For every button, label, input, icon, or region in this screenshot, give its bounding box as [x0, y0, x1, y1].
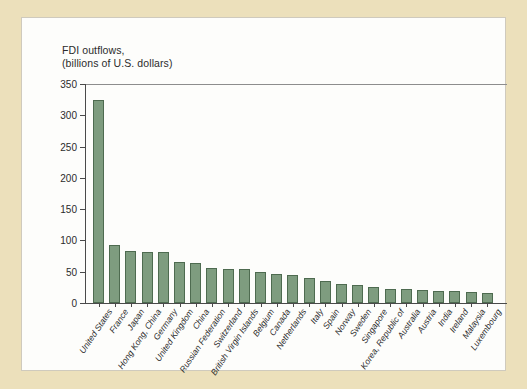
bar — [287, 275, 298, 303]
y-tick — [80, 303, 85, 304]
y-tick-label: 250 — [60, 141, 77, 152]
bar — [482, 293, 493, 303]
chart-title-line1: FDI outflows, — [62, 44, 173, 57]
y-tick-label: 150 — [60, 204, 77, 215]
bar — [223, 269, 234, 303]
plot-area: 050100150200250300350 — [85, 84, 507, 303]
bar — [271, 274, 282, 303]
y-tick-label: 300 — [60, 110, 77, 121]
bar — [142, 252, 153, 303]
bar — [352, 285, 363, 303]
bar-series — [85, 84, 507, 303]
bar — [449, 291, 460, 303]
y-tick-label: 100 — [60, 235, 77, 246]
bar — [174, 262, 185, 303]
bar — [190, 263, 201, 303]
y-tick-label: 200 — [60, 172, 77, 183]
y-tick-label: 50 — [66, 266, 77, 277]
bar — [336, 284, 347, 303]
bar — [368, 287, 379, 303]
x-tick-label: United States — [77, 307, 114, 355]
y-tick-label: 0 — [71, 298, 77, 309]
bar — [304, 278, 315, 303]
bar — [417, 290, 428, 303]
bar — [385, 289, 396, 303]
y-tick-label: 350 — [60, 79, 77, 90]
chart-title: FDI outflows, (billions of U.S. dollars) — [62, 44, 173, 70]
x-axis-labels: United StatesFranceJapanHong Kong, China… — [85, 307, 525, 389]
x-axis-line — [85, 303, 507, 304]
bar — [255, 272, 266, 303]
bar — [466, 292, 477, 303]
bar — [320, 281, 331, 303]
chart-panel: FDI outflows, (billions of U.S. dollars)… — [22, 18, 505, 370]
chart-title-line2: (billions of U.S. dollars) — [62, 57, 173, 70]
bar — [109, 245, 120, 303]
figure-root: FDI outflows, (billions of U.S. dollars)… — [0, 0, 527, 389]
bar — [125, 251, 136, 303]
bar — [158, 252, 169, 303]
bar — [239, 269, 250, 303]
bar — [401, 289, 412, 303]
bar — [206, 268, 217, 303]
bar — [93, 100, 104, 303]
bar — [433, 291, 444, 304]
